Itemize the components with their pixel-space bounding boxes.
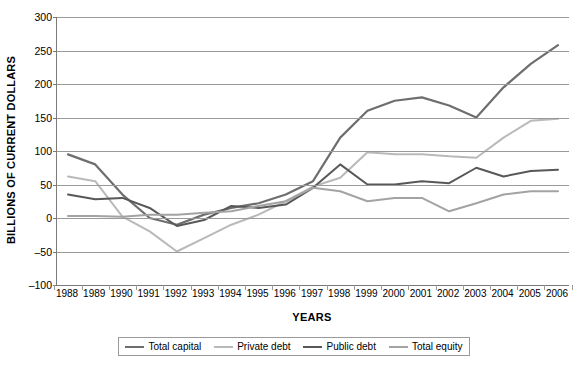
gridline [57, 51, 569, 52]
x-axis-tick-label: 2003 [464, 288, 486, 299]
x-axis-tick-label: 1995 [246, 288, 268, 299]
gridline [57, 17, 569, 18]
gridline [57, 118, 569, 119]
y-axis-tick-label: 0 [46, 212, 52, 224]
y-axis-tick-labels: 300250200150100500–50–100 [18, 0, 52, 300]
x-axis-tick-label: 1997 [301, 288, 323, 299]
x-axis-tick-label: 1992 [165, 288, 187, 299]
x-axis-tick-label: 2002 [437, 288, 459, 299]
x-axis-tick-label: 2001 [410, 288, 432, 299]
y-axis-tick-label: 100 [34, 145, 52, 157]
legend-swatch-icon [125, 346, 144, 348]
x-axis-tick-labels: 1988198919901991199219931994199519961997… [56, 288, 568, 304]
y-axis-tick-mark [53, 51, 57, 52]
x-axis-title: YEARS [56, 311, 568, 323]
y-axis-tick-mark [53, 185, 57, 186]
line-chart: BILLIONS OF CURRENT DOLLARS 300250200150… [0, 0, 582, 368]
y-axis-tick-label: –100 [29, 279, 52, 291]
series-line [68, 45, 558, 225]
legend-swatch-icon [214, 346, 233, 348]
x-axis-line [57, 285, 569, 286]
y-axis-tick-mark [53, 84, 57, 85]
y-axis-tick-label: 200 [34, 78, 52, 90]
y-axis-tick-label: 150 [34, 112, 52, 124]
x-axis-tick-label: 1994 [219, 288, 241, 299]
gridline [57, 185, 569, 186]
plot-area [56, 17, 568, 285]
legend-item[interactable]: Total equity [389, 341, 463, 352]
x-axis-tick-label: 2000 [383, 288, 405, 299]
legend-label: Public debt [326, 341, 375, 352]
y-axis-tick-label: 50 [40, 179, 52, 191]
legend-item[interactable]: Private debt [214, 341, 290, 352]
legend-label: Total capital [148, 341, 201, 352]
y-axis-tick-label: 300 [34, 11, 52, 23]
gridline [57, 84, 569, 85]
x-axis-tick-label: 2005 [519, 288, 541, 299]
y-axis-tick-label: 250 [34, 45, 52, 57]
x-axis-tick-label: 1988 [56, 288, 78, 299]
x-axis-tick-label: 2004 [491, 288, 513, 299]
gridline [57, 218, 569, 219]
y-axis-tick-mark [53, 218, 57, 219]
x-axis-tick-mark [572, 285, 573, 290]
x-axis-tick-label: 1999 [355, 288, 377, 299]
x-axis-tick-label: 1990 [110, 288, 132, 299]
gridline [57, 151, 569, 152]
legend-label: Total equity [412, 341, 463, 352]
legend-item[interactable]: Public debt [303, 341, 375, 352]
legend-swatch-icon [389, 346, 408, 348]
x-axis-tick-label: 2006 [546, 288, 568, 299]
legend-swatch-icon [303, 346, 322, 348]
y-axis-tick-mark [53, 252, 57, 253]
x-axis-tick-label: 1996 [274, 288, 296, 299]
gridline [57, 252, 569, 253]
series-line [68, 164, 558, 226]
x-axis-tick-label: 1989 [83, 288, 105, 299]
y-axis-tick-mark [53, 151, 57, 152]
x-axis-tick-label: 1998 [328, 288, 350, 299]
y-axis-tick-mark [53, 17, 57, 18]
legend-label: Private debt [237, 341, 290, 352]
x-axis-tick-label: 1993 [192, 288, 214, 299]
chart-legend: Total capitalPrivate debtPublic debtTota… [118, 337, 470, 356]
x-axis-tick-label: 1991 [138, 288, 160, 299]
y-axis-tick-mark [53, 118, 57, 119]
legend-item[interactable]: Total capital [125, 341, 201, 352]
y-axis-tick-label: –50 [34, 246, 52, 258]
